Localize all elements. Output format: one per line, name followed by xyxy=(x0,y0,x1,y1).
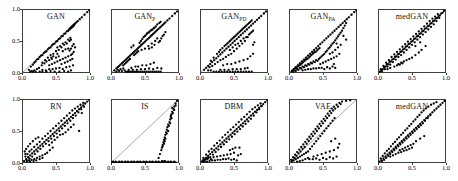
panel-title-base: DBM xyxy=(225,102,244,111)
x-axis-tick-mark xyxy=(234,163,235,165)
x-axis-tick-label: 0.0 xyxy=(285,75,293,82)
scatter-panel-gan-pd: GANPD0.00.51.0 xyxy=(200,9,268,73)
scatter-panel-rn: RN0.00.51.00.00.51.0 xyxy=(22,99,90,163)
x-axis-tick-label: 1.0 xyxy=(442,75,450,82)
x-axis-tick-mark xyxy=(111,73,112,75)
x-axis-tick-label: 0.5 xyxy=(52,165,60,172)
panel-title: GANPA xyxy=(289,12,357,22)
x-axis-tick-label: 0.5 xyxy=(319,165,327,172)
panel-title: IS xyxy=(111,102,179,111)
x-axis-tick-label: 0.5 xyxy=(141,75,149,82)
y-axis-tick-label: 0.5 xyxy=(12,128,20,135)
x-axis-tick-label: 0.5 xyxy=(408,75,416,82)
x-axis-tick-mark xyxy=(234,73,235,75)
panel-title-base: RN xyxy=(50,102,62,111)
x-axis-tick-label: 1.0 xyxy=(353,75,361,82)
y-axis-tick-mark xyxy=(20,99,22,100)
x-axis-tick-mark xyxy=(90,73,91,75)
panel-title-base: GAN xyxy=(47,12,65,21)
panel-title: RN xyxy=(22,102,90,111)
x-axis-tick-label: 0.5 xyxy=(230,165,238,172)
x-axis-tick-mark xyxy=(56,73,57,75)
x-axis-tick-label: 0.5 xyxy=(52,75,60,82)
panel-title: medGAN xyxy=(378,102,446,111)
x-axis-tick-label: 0.0 xyxy=(18,165,26,172)
x-axis-tick-label: 1.0 xyxy=(264,165,272,172)
x-axis-tick-mark xyxy=(22,73,23,75)
y-axis-tick-mark xyxy=(20,131,22,132)
x-axis-tick-label: 0.0 xyxy=(374,75,382,82)
x-axis-tick-label: 1.0 xyxy=(175,165,183,172)
panel-title: GANPD xyxy=(200,12,268,22)
panel-title: GANP xyxy=(111,12,179,22)
x-axis-tick-label: 1.0 xyxy=(86,75,94,82)
panel-title: DBM xyxy=(200,102,268,111)
x-axis-tick-mark xyxy=(268,73,269,75)
panel-title: GAN xyxy=(22,12,90,21)
panel-title-base: GAN xyxy=(221,12,239,21)
panel-title-base: medGAN xyxy=(396,12,428,21)
x-axis-tick-mark xyxy=(22,163,23,165)
x-axis-tick-label: 1.0 xyxy=(264,75,272,82)
x-axis-tick-mark xyxy=(200,163,201,165)
panel-title-base: medGAN xyxy=(396,102,428,111)
x-axis-tick-mark xyxy=(446,163,447,165)
x-axis-tick-mark xyxy=(357,73,358,75)
x-axis-tick-label: 0.5 xyxy=(141,165,149,172)
x-axis-tick-label: 0.0 xyxy=(374,165,382,172)
panel-title-base: VAE xyxy=(315,102,331,111)
y-axis-tick-mark xyxy=(20,41,22,42)
y-axis-tick-mark xyxy=(20,9,22,10)
x-axis-tick-label: 1.0 xyxy=(175,75,183,82)
panel-row-bottom: RN0.00.51.00.00.51.0IS0.00.51.0DBM0.00.5… xyxy=(0,90,458,180)
x-axis-tick-label: 0.5 xyxy=(408,165,416,172)
panel-title-subscript: P xyxy=(152,16,155,22)
panel-row-top: GAN0.00.51.00.00.51.0GANP0.00.51.0GANPD0… xyxy=(0,0,458,90)
x-axis-tick-mark xyxy=(179,73,180,75)
y-axis-tick-label: 1.0 xyxy=(12,6,20,13)
y-axis-tick-label: 1.0 xyxy=(12,96,20,103)
panel-title: medGAN xyxy=(378,12,446,21)
x-axis-tick-mark xyxy=(412,73,413,75)
scatter-panel-gan: GAN0.00.51.00.00.51.0 xyxy=(22,9,90,73)
x-axis-tick-mark xyxy=(323,73,324,75)
scatter-panel-medgan: medGAN0.00.51.0 xyxy=(378,9,446,73)
x-axis-tick-mark xyxy=(145,163,146,165)
scatter-panel-gan-pa: GANPA0.00.51.0 xyxy=(289,9,357,73)
scatter-panel-medgan: medGAN0.00.51.0 xyxy=(378,99,446,163)
panel-title-base: GAN xyxy=(134,12,152,21)
x-axis-tick-mark xyxy=(446,73,447,75)
x-axis-tick-mark xyxy=(56,163,57,165)
x-axis-tick-label: 1.0 xyxy=(353,165,361,172)
x-axis-tick-mark xyxy=(90,163,91,165)
x-axis-tick-label: 0.5 xyxy=(319,75,327,82)
panel-title-base: GAN xyxy=(311,12,329,21)
scatter-panel-vae: VAE0.00.51.0 xyxy=(289,99,357,163)
x-axis-tick-mark xyxy=(145,73,146,75)
x-axis-tick-label: 0.0 xyxy=(107,165,115,172)
x-axis-tick-label: 0.0 xyxy=(196,165,204,172)
x-axis-tick-label: 0.5 xyxy=(230,75,238,82)
x-axis-tick-mark xyxy=(323,163,324,165)
scatter-plot-grid-figure: GAN0.00.51.00.00.51.0GANP0.00.51.0GANPD0… xyxy=(0,0,458,181)
x-axis-tick-mark xyxy=(111,163,112,165)
x-axis-tick-label: 0.0 xyxy=(196,75,204,82)
x-axis-tick-label: 1.0 xyxy=(442,165,450,172)
x-axis-tick-label: 0.0 xyxy=(18,75,26,82)
x-axis-tick-mark xyxy=(378,163,379,165)
x-axis-tick-label: 1.0 xyxy=(86,165,94,172)
x-axis-tick-mark xyxy=(200,73,201,75)
y-axis-tick-label: 0.5 xyxy=(12,38,20,45)
x-axis-tick-mark xyxy=(289,73,290,75)
scatter-panel-dbm: DBM0.00.51.0 xyxy=(200,99,268,163)
panel-title: VAE xyxy=(289,102,357,111)
panel-title-subscript: PA xyxy=(329,16,336,22)
x-axis-tick-mark xyxy=(378,73,379,75)
x-axis-tick-label: 0.0 xyxy=(285,165,293,172)
x-axis-tick-mark xyxy=(357,163,358,165)
x-axis-tick-label: 0.0 xyxy=(107,75,115,82)
x-axis-tick-mark xyxy=(289,163,290,165)
scatter-panel-gan-p: GANP0.00.51.0 xyxy=(111,9,179,73)
scatter-panel-is: IS0.00.51.0 xyxy=(111,99,179,163)
x-axis-tick-mark xyxy=(412,163,413,165)
